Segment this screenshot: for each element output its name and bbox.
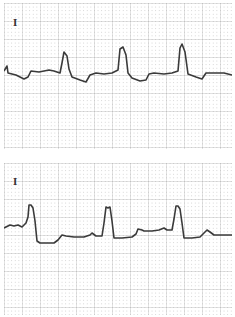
ecg-panel-bottom: I	[4, 163, 232, 315]
lead-label: I	[13, 16, 17, 28]
ecg-panel-top: I	[4, 3, 232, 149]
ecg-grid-bottom	[4, 163, 232, 315]
ecg-grid-top	[4, 3, 232, 149]
lead-label: I	[13, 175, 17, 187]
